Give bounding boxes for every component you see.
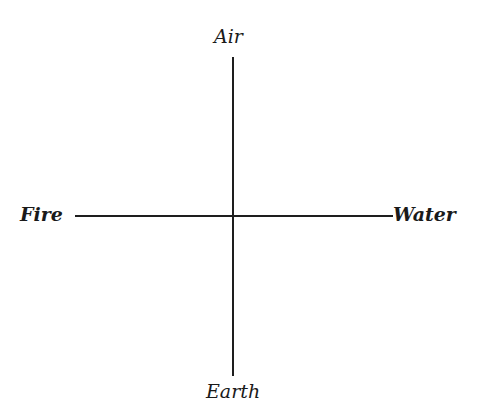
horizontal-axis-line (75, 215, 393, 217)
label-air: Air (214, 27, 243, 46)
label-water: Water (393, 205, 456, 224)
label-fire: Fire (20, 205, 63, 224)
elements-diagram: Air Fire Water Earth (0, 0, 492, 418)
label-earth: Earth (206, 382, 260, 401)
